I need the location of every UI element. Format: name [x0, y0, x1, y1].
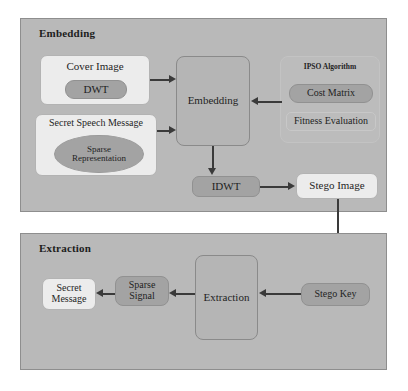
embedding-block-node[interactable]: Embedding	[176, 56, 250, 146]
connector-embedding-to-idwt	[212, 146, 214, 169]
connector-extraction-to-sparse-signal	[176, 293, 195, 295]
ipso-algorithm-title: IPSO Algorithm	[281, 57, 379, 71]
secret-speech-message-label: Secret Speech Message	[36, 115, 156, 129]
connector-cover-to-embedding	[150, 79, 170, 81]
sparse-representation-ellipse[interactable]: Sparse Representation	[54, 135, 144, 173]
connector-stego-key-to-extraction	[266, 293, 301, 295]
arrowhead-ipso-to-embedding	[251, 97, 258, 105]
fitness-evaluation-node[interactable]: Fitness Evaluation	[286, 112, 376, 131]
arrowhead-extraction-to-sparse-signal	[169, 289, 176, 297]
cover-image-label: Cover Image	[41, 56, 149, 73]
cover-image-node[interactable]: Cover Image DWT	[40, 55, 150, 105]
secret-message-node[interactable]: Secret Message	[42, 278, 96, 310]
diagram-canvas: Embedding Cover Image DWT Secret Speech …	[0, 0, 408, 391]
cost-matrix-node[interactable]: Cost Matrix	[289, 84, 373, 103]
idwt-node[interactable]: IDWT	[192, 176, 260, 197]
sparse-signal-line2: Signal	[129, 291, 155, 302]
connector-sparse-signal-to-secret-message	[103, 293, 115, 295]
secret-message-line2: Message	[52, 294, 87, 305]
dwt-node[interactable]: DWT	[65, 80, 127, 99]
stego-key-node[interactable]: Stego Key	[301, 283, 370, 306]
connector-idwt-to-stego-image	[260, 186, 289, 188]
stego-image-node[interactable]: Stego Image	[296, 173, 378, 199]
arrowhead-sparse-signal-to-secret-message	[96, 289, 103, 297]
connector-ipso-to-embedding	[258, 101, 282, 103]
sparse-representation-line2: Representation	[72, 154, 126, 163]
sparse-signal-node[interactable]: Sparse Signal	[115, 276, 169, 306]
arrowhead-speech-to-embedding	[169, 126, 176, 134]
secret-speech-message-node[interactable]: Secret Speech Message Sparse Representat…	[35, 114, 157, 176]
arrowhead-idwt-to-stego-image	[288, 182, 295, 190]
arrowhead-stego-key-to-extraction	[259, 289, 266, 297]
embedding-section-title: Embedding	[39, 27, 95, 39]
extraction-block-node[interactable]: Extraction	[195, 255, 258, 340]
extraction-section-title: Extraction	[39, 242, 91, 254]
arrowhead-embedding-to-idwt	[208, 168, 216, 175]
arrowhead-cover-to-embedding	[169, 75, 176, 83]
ipso-algorithm-group: IPSO Algorithm Cost Matrix Fitness Evalu…	[280, 56, 380, 143]
